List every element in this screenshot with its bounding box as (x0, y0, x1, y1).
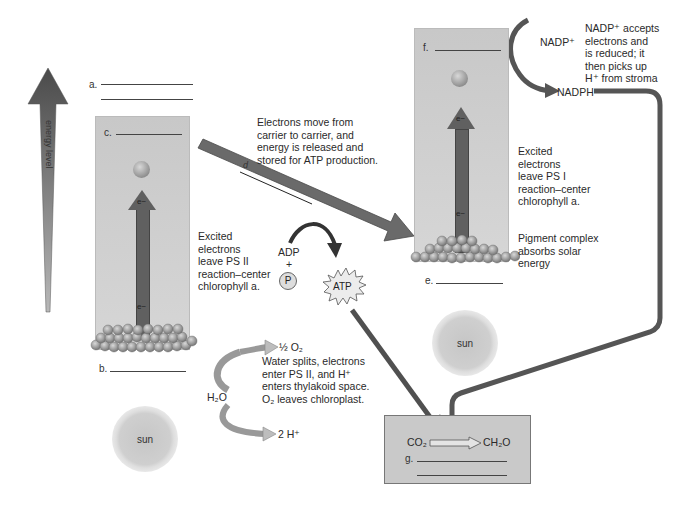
nadp-caption: NADP⁺ accepts electrons and is reduced; … (585, 22, 659, 85)
energy-level-arrow-icon (28, 68, 68, 312)
blank-e-line[interactable] (436, 283, 503, 284)
co2-label: CO₂ (407, 436, 427, 449)
label-e: e. (425, 275, 433, 286)
electron-label-bottom: e− (137, 302, 146, 311)
ch2o-label: CH₂O (483, 436, 510, 449)
adp-label: ADP (278, 246, 300, 259)
electron-transport-caption: Electrons move from carrier to carrier, … (257, 116, 378, 166)
phosphate-label: P (285, 275, 292, 286)
two-h-plus-label: 2 H⁺ (278, 428, 300, 441)
pigment-spheres-icon (88, 323, 198, 353)
sun-left: sun (112, 406, 178, 472)
blank-b-line[interactable] (110, 371, 186, 372)
sun-right: sun (432, 310, 498, 376)
co2-to-ch2o-arrow-icon (429, 436, 489, 450)
water-split-caption: Water splits, electrons enter PS II, and… (262, 355, 369, 405)
h2o-label: H₂O (207, 391, 227, 404)
ps1-pigment-cluster (410, 235, 520, 265)
energy-level-label: energy level (44, 120, 54, 190)
blank-g-line-2[interactable] (417, 475, 507, 476)
label-a: a. (89, 79, 97, 90)
nadp-plus-label: NADP⁺ (540, 36, 575, 49)
plus-sign: + (286, 258, 292, 271)
calvin-cycle-box: CO₂ CH₂O g. (384, 415, 531, 484)
sun-left-label: sun (112, 434, 178, 445)
ps1-electron-label-bottom: e− (456, 209, 465, 218)
label-g: g. (405, 453, 413, 464)
label-f: f. (423, 42, 429, 53)
blank-f-line[interactable] (435, 50, 501, 51)
ps2-pigment-cluster (88, 323, 198, 353)
ps1-electron-label-top: e− (456, 114, 465, 123)
pigment-complex-caption: Pigment complex absorbs solar energy (518, 232, 599, 270)
electron-acceptor-sphere-icon (133, 161, 150, 178)
atp-label: ATP (333, 281, 352, 292)
phosphate-circle: P (279, 272, 297, 290)
ps1-caption: Excited electrons leave PS I reaction–ce… (518, 145, 590, 208)
blank-g-line-1[interactable] (417, 461, 507, 462)
photosystem-i-panel: f. e− e− (414, 28, 509, 262)
label-b: b. (99, 363, 107, 374)
label-c: c. (104, 127, 112, 138)
half-o2-label: ½ O₂ (279, 341, 303, 354)
electron-label-top: e− (137, 197, 146, 206)
nadp-to-nadph-arrow-icon (511, 20, 560, 98)
blank-a-line-1[interactable] (101, 84, 193, 85)
label-d: d (243, 160, 248, 170)
ps1-pigment-spheres-icon (410, 235, 520, 265)
blank-c-line[interactable] (116, 134, 182, 135)
ps2-caption: Excited electrons leave PS II reaction–c… (198, 230, 270, 293)
ps1-acceptor-sphere-icon (451, 70, 468, 87)
sun-right-label: sun (432, 338, 498, 349)
excitation-arrow-icon (136, 209, 150, 336)
blank-a-line-2[interactable] (101, 99, 193, 100)
nadph-label: NADPH (557, 86, 594, 99)
photosystem-ii-panel: c. e− e− (95, 116, 190, 350)
